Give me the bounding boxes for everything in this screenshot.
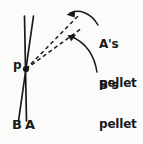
a-pellet-annotation-line1: A's	[99, 38, 137, 51]
dashed-ray-a-pellet	[26, 15, 79, 69]
b-pellet-arrow	[72, 37, 98, 73]
a-pellet-arrowhead	[67, 10, 76, 17]
b-pellet-annotation-line2: pellet	[99, 118, 137, 131]
line-b-label: B	[12, 118, 22, 132]
dashed-ray-b-pellet	[26, 28, 82, 69]
physics-diagram-figure: p B A A's pellet B's pellet	[0, 0, 143, 144]
point-p-marker	[23, 66, 29, 72]
b-pellet-annotation-line1: B's	[99, 79, 137, 92]
line-a-label: A	[25, 118, 35, 132]
b-pellet-annotation: B's pellet	[99, 53, 137, 144]
point-p-label: p	[13, 59, 21, 72]
